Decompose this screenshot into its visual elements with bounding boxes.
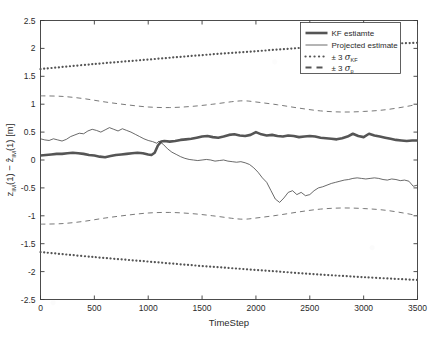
x-tick-label: 0 (38, 303, 43, 313)
x-axis-title: TimeStep (209, 317, 249, 328)
series-line-1 (41, 128, 418, 203)
y-tick-label: 2.5 (24, 16, 36, 26)
legend-box[interactable]: KF estiamteProjected estimate± 3 σKF± 3 … (301, 23, 401, 75)
x-tick-label: 500 (87, 303, 101, 313)
y-tick-label: -1.5 (21, 239, 36, 249)
legend-label-0: KF estiamte (332, 29, 375, 38)
y-tick-label: 0 (31, 155, 36, 165)
y-tick-label: -2.5 (21, 295, 36, 305)
y-tick-label: 0.5 (24, 127, 36, 137)
y-tick-label: -0.5 (21, 183, 36, 193)
figure-canvas: 0500100015002000250030003500-2.5-2-1.5-1… (0, 0, 443, 344)
series-line-5 (41, 208, 418, 224)
legend-label-3: ± 3 σp (332, 63, 354, 75)
y-tick-label: 1.5 (24, 71, 36, 81)
series-line-0 (41, 132, 418, 157)
x-tick-label: 2000 (246, 303, 265, 313)
series-line-3 (41, 252, 418, 280)
x-tick-label: 1500 (193, 303, 212, 313)
y-tick-label: -1 (28, 211, 36, 221)
x-tick-label: 3500 (408, 303, 427, 313)
x-tick-label: 1000 (139, 303, 158, 313)
y-axis-title: zIM(1) − ẑIM(1) [m] (4, 124, 17, 197)
x-tick-label: 3000 (354, 303, 373, 313)
y-axis-title-text: zIM(1) − ẑIM(1) [m] (4, 124, 17, 197)
y-tick-label: -2 (28, 267, 36, 277)
y-tick-label: 2 (31, 43, 36, 53)
legend-label-1: Projected estimate (332, 41, 399, 50)
series-line-4 (41, 96, 418, 112)
x-tick-label: 2500 (300, 303, 319, 313)
y-tick-label: 1 (31, 99, 36, 109)
series-layer (41, 43, 418, 280)
chart-plot: 0500100015002000250030003500-2.5-2-1.5-1… (0, 0, 443, 344)
